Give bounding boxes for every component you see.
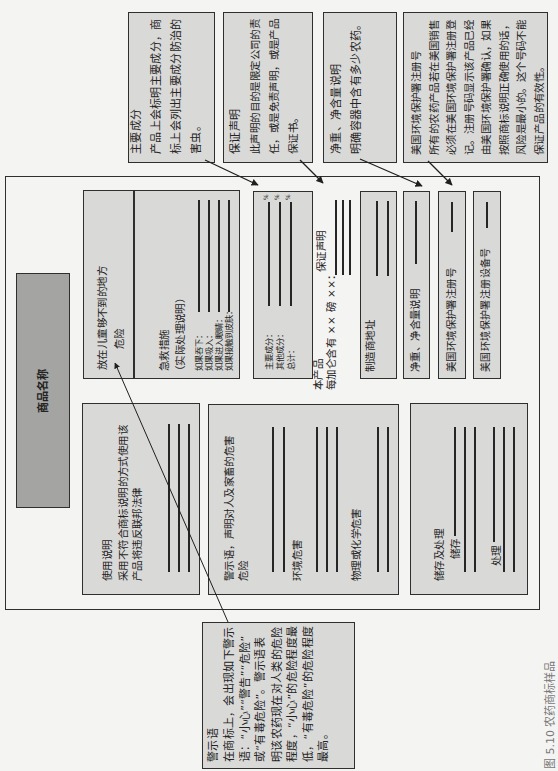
arrow-signal-word <box>115 363 228 622</box>
figure-caption: 图 5.10 农药商标样品 <box>544 661 558 770</box>
arrow-active-ingredients <box>205 160 258 185</box>
arrow-warranty <box>300 160 323 183</box>
arrow-epa-registration <box>428 161 452 185</box>
arrow-net-contents <box>360 159 422 186</box>
